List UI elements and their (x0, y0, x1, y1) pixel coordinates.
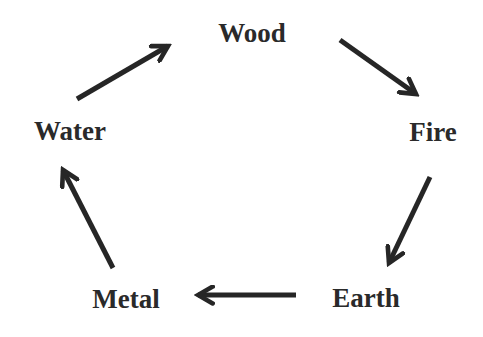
arrow-fire-to-earth (389, 177, 430, 263)
arrow-water-to-wood (77, 46, 168, 99)
node-metal: Metal (92, 286, 159, 313)
node-fire: Fire (409, 119, 456, 146)
node-earth: Earth (332, 285, 400, 312)
node-wood: Wood (218, 20, 286, 47)
arrow-wood-to-fire (340, 40, 416, 94)
arrows-layer (0, 0, 483, 337)
node-water: Water (34, 118, 106, 145)
five-elements-cycle-diagram: Wood Fire Earth Metal Water (0, 0, 483, 337)
arrow-metal-to-water (63, 170, 113, 268)
